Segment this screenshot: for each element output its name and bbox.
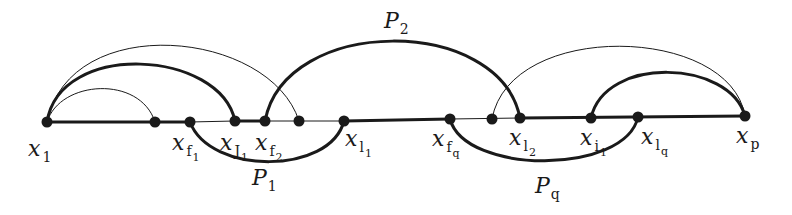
node-labels: x1xf1xJ1xf2xl1xfqxl2xi1xlqxp (28, 123, 759, 165)
path-label-Pq: Pq (534, 173, 560, 202)
node-xi1 (586, 113, 597, 124)
path-label-P2: P2 (383, 8, 409, 37)
node-label-xf2: xf2 (255, 130, 283, 164)
edge-thin-xf1-xj1 (190, 121, 235, 122)
node-xf2 (260, 116, 271, 127)
node-label-xi1: xi1 (580, 125, 607, 159)
node-label-xlq: xlq (641, 124, 668, 158)
node-label-xf1: xf1 (172, 130, 200, 164)
node-label-xp: xp (736, 123, 759, 152)
edge-thin-xfq-xl2 (450, 118, 520, 119)
node-u2 (294, 116, 305, 127)
node-xp (740, 111, 751, 122)
path-labels: P1P2Pq (251, 8, 560, 202)
node-xj1 (230, 116, 241, 127)
node-u1 (150, 117, 161, 128)
arc-thick-P2 (265, 41, 520, 121)
arc-thin-x1-u2 (47, 45, 299, 122)
upper-arcs (47, 41, 745, 122)
path-cover-diagram: x1xf1xJ1xf2xl1xfqxl2xi1xlqxp P1P2Pq (0, 0, 792, 215)
path-label-P1: P1 (251, 165, 277, 194)
node-label-xl1: xl1 (345, 126, 372, 160)
node-xl1 (339, 116, 350, 127)
node-label-xl2: xl2 (509, 125, 536, 159)
node-label-xj1: xJ1 (220, 130, 248, 164)
node-xf1 (185, 117, 196, 128)
node-xlq (633, 112, 644, 123)
node-u3 (487, 114, 498, 125)
node-xl2 (515, 113, 526, 124)
arc-thin-x1-u1 (47, 89, 155, 122)
node-xfq (445, 114, 456, 125)
arc-thick-xi1-xp (591, 72, 745, 118)
node-label-x1: x1 (28, 136, 51, 165)
node-x1 (42, 117, 53, 128)
arc-thick-Pq (450, 117, 638, 161)
edge-thick-xl1-xfq (344, 119, 450, 121)
